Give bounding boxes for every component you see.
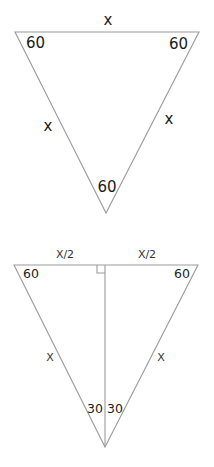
angle-label-top-left: 60: [26, 34, 45, 52]
angle-label-top-left: 60: [23, 266, 39, 281]
angle-label-bottom: 60: [97, 178, 116, 196]
right-angle-icon: [97, 265, 105, 273]
equilateral-triangle: x x x 60 60 60: [15, 11, 199, 213]
angle-label-bottom-right-half: 30: [107, 401, 123, 416]
geometry-diagram: x x x 60 60 60 X/2 X/2 60 60 X X 30 30: [0, 0, 214, 467]
bisected-triangle: X/2 X/2 60 60 X X 30 30: [14, 248, 198, 447]
angle-label-top-right: 60: [169, 35, 188, 53]
half-base-label-left: X/2: [56, 248, 74, 261]
side-label-left: X: [46, 351, 54, 364]
angle-label-top-right: 60: [174, 266, 190, 281]
half-base-label-right: X/2: [138, 248, 156, 261]
side-label-top: x: [104, 11, 113, 29]
side-label-right: X: [157, 351, 165, 364]
side-label-left: x: [44, 117, 53, 135]
side-label-right: x: [165, 110, 174, 128]
angle-label-bottom-left-half: 30: [87, 401, 103, 416]
bisected-triangle-outline: [14, 265, 198, 447]
